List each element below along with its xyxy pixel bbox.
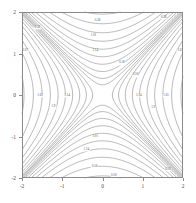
- y-tick-mark: [19, 178, 22, 179]
- y-tick-label: 2: [4, 9, 16, 15]
- plot-frame: [22, 12, 183, 178]
- y-tick-label: 1: [4, 51, 16, 57]
- y-tick-label: -1: [4, 134, 16, 140]
- x-tick-label: 0: [101, 183, 104, 189]
- x-tick-mark: [143, 178, 144, 181]
- y-tick-mark: [19, 12, 22, 13]
- y-tick-mark: [19, 54, 22, 55]
- contour-plot-figure: 0.580.580.581.011.141.671.670.580.581.61…: [0, 0, 196, 203]
- y-tick-mark: [19, 95, 22, 96]
- x-tick-label: 1: [141, 183, 144, 189]
- y-tick-label: -2: [4, 175, 16, 181]
- x-tick-label: -1: [60, 183, 65, 189]
- x-tick-mark: [62, 178, 63, 181]
- plot-area: 0.580.580.581.011.141.671.670.580.581.61…: [22, 12, 183, 178]
- x-tick-mark: [183, 178, 184, 181]
- y-tick-label: 0: [4, 92, 16, 98]
- x-tick-mark: [22, 178, 23, 181]
- x-tick-label: -2: [20, 183, 25, 189]
- x-tick-label: 2: [182, 183, 185, 189]
- y-tick-mark: [19, 137, 22, 138]
- x-tick-mark: [103, 178, 104, 181]
